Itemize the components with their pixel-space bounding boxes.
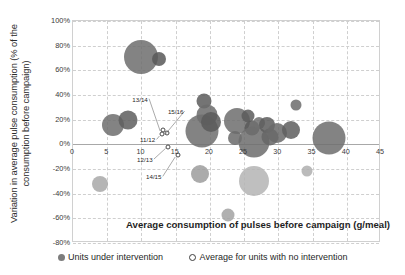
y-axis-tick-labels: 100%80%60%40%20%0%-20%-40%-60%-80%: [32, 0, 70, 275]
x-tick-label: 5: [104, 147, 108, 156]
y-tick-label: 80%: [36, 40, 70, 49]
y-tick-label: 60%: [36, 65, 70, 74]
gridline-horizontal: [73, 243, 379, 244]
chart-legend: Units under intervention Average for uni…: [0, 252, 405, 262]
y-tick-label: -40%: [36, 188, 70, 197]
data-label: 14/15: [146, 173, 161, 180]
leader-line: [157, 136, 160, 139]
hollow-circle-icon: [189, 254, 196, 261]
gridline-vertical: [176, 21, 177, 241]
y-tick-label: -60%: [36, 213, 70, 222]
hollow-bubble-marker: [165, 131, 170, 136]
x-tick-label: 0: [70, 147, 74, 156]
legend-label-no-intervention: Average for units with no intervention: [200, 252, 348, 262]
gridline-horizontal: [73, 21, 379, 22]
data-label: 11/12: [140, 136, 155, 143]
x-axis-title: Average consumption of pulses before cam…: [118, 219, 398, 230]
filled-circle-icon: [58, 254, 65, 261]
x-tick-label: 30: [273, 147, 281, 156]
bubble-marker: [118, 110, 137, 129]
y-axis-title: Variation in average pulse consumption (…: [8, 9, 31, 239]
gridline-horizontal: [73, 169, 379, 170]
bubble-marker: [302, 166, 313, 177]
leader-line: [154, 148, 166, 159]
gridline-vertical: [347, 21, 348, 241]
x-tick-label: 20: [205, 147, 213, 156]
legend-item-no-intervention: Average for units with no intervention: [189, 252, 347, 262]
y-tick-label: 100%: [36, 16, 70, 25]
y-tick-label: -20%: [36, 164, 70, 173]
plot-area: 13/1415/1611/1212/1314/15: [72, 20, 380, 242]
bubble-marker: [312, 122, 345, 155]
hollow-bubble-marker: [159, 132, 164, 137]
x-tick-label: 45: [376, 147, 384, 156]
bubble-marker: [152, 52, 166, 66]
bubble-marker: [282, 121, 300, 139]
bubble-marker: [92, 176, 108, 192]
data-label: 12/13: [137, 156, 152, 163]
x-tick-label: 25: [239, 147, 247, 156]
legend-item-intervention: Units under intervention: [58, 252, 164, 262]
data-label: 13/14: [132, 95, 147, 102]
bubble-marker: [291, 99, 302, 110]
leader-line: [163, 157, 175, 176]
y-tick-label: 40%: [36, 90, 70, 99]
bubble-marker: [239, 166, 269, 196]
x-tick-label: 15: [171, 147, 179, 156]
data-label: 15/16: [168, 108, 183, 115]
y-tick-label: 20%: [36, 114, 70, 123]
bubble-marker: [201, 112, 221, 132]
legend-label-intervention: Units under intervention: [68, 252, 163, 262]
gridline-horizontal: [73, 46, 379, 47]
x-tick-label: 35: [308, 147, 316, 156]
x-tick-label: 40: [342, 147, 350, 156]
leader-line: [149, 99, 160, 131]
bubble-chart: Variation in average pulse consumption (…: [0, 0, 405, 275]
gridline-horizontal: [73, 70, 379, 71]
x-tick-label: 10: [136, 147, 144, 156]
gridline-horizontal: [73, 194, 379, 195]
gridline-horizontal: [73, 95, 379, 96]
bubble-marker: [191, 165, 209, 183]
y-tick-label: -80%: [36, 238, 70, 247]
y-tick-label: 0%: [36, 139, 70, 148]
